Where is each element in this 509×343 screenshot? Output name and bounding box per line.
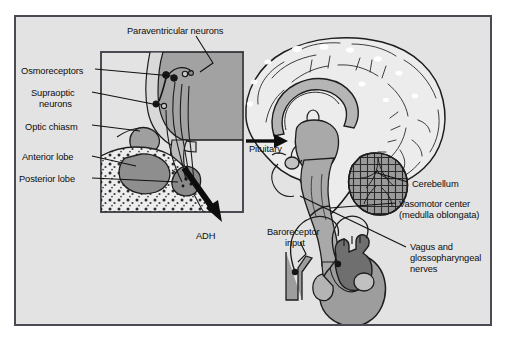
label-baroreceptor-input-line2: input xyxy=(285,238,305,249)
label-supraoptic-neurons-line2: neurons xyxy=(39,99,72,110)
label-adh: ADH xyxy=(196,231,215,242)
label-posterior-lobe: Posterior lobe xyxy=(19,174,75,185)
label-vasomotor-center-line2: (medulla oblongata) xyxy=(399,210,479,221)
diagram-page: Paraventricular neurons Osmoreceptors Su… xyxy=(0,0,509,343)
figure-frame xyxy=(14,15,492,326)
label-anterior-lobe: Anterior lobe xyxy=(22,152,73,163)
label-paraventricular-neurons: Paraventricular neurons xyxy=(127,26,223,37)
label-pituitary: Pituitary xyxy=(249,144,282,155)
label-supraoptic-neurons-line1: Supraoptic xyxy=(31,88,74,99)
label-vagus-line2: glossopharyngeal xyxy=(410,253,481,264)
label-cerebellum: Cerebellum xyxy=(412,179,459,190)
label-vagus-line1: Vagus and xyxy=(410,242,453,253)
label-baroreceptor-input-line1: Baroreceptor xyxy=(267,227,320,238)
label-optic-chiasm: Optic chiasm xyxy=(25,122,78,133)
label-vasomotor-center-line1: Vasomotor center xyxy=(399,199,470,210)
label-osmoreceptors: Osmoreceptors xyxy=(21,66,83,77)
label-vagus-line3: nerves xyxy=(410,264,437,275)
